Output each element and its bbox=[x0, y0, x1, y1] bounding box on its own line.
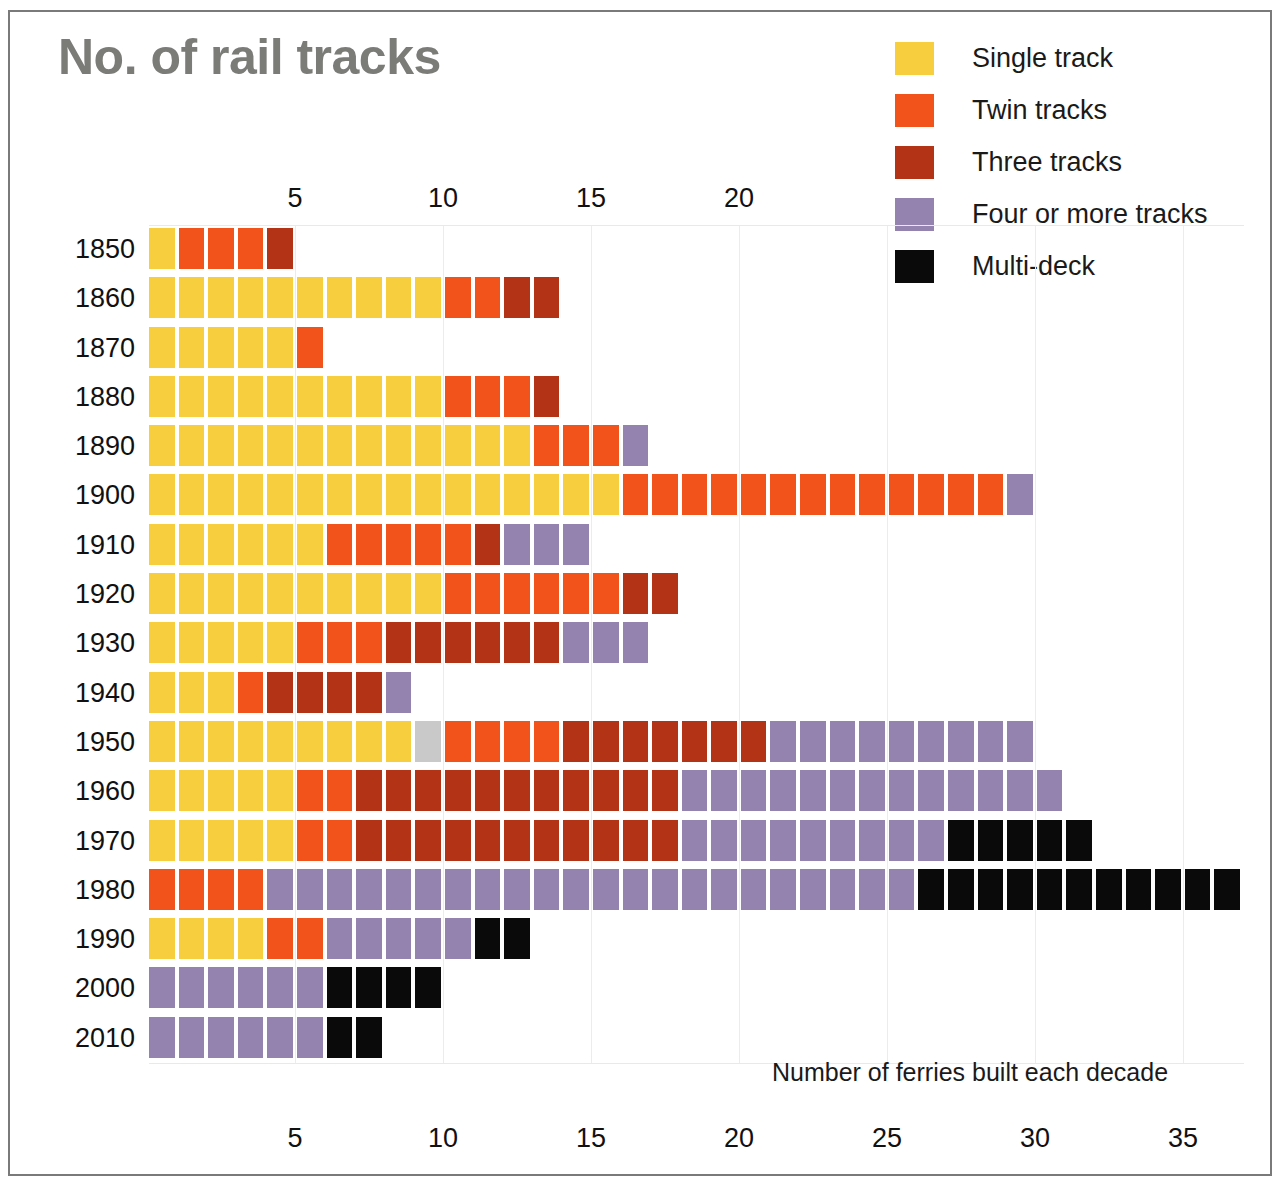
bar-cell-four_plus bbox=[356, 918, 382, 959]
bar-cell-twin bbox=[327, 770, 353, 811]
legend-swatch-single bbox=[895, 42, 934, 75]
bar-cell-single bbox=[238, 524, 264, 565]
bar-row-1870: 1870 bbox=[149, 324, 1244, 373]
bar-cell-three bbox=[563, 770, 589, 811]
bar-cell-three bbox=[386, 622, 412, 663]
bar-cell-single bbox=[267, 425, 293, 466]
bar-cell-single bbox=[208, 524, 234, 565]
bar-cell-single bbox=[179, 474, 205, 515]
bar-cell-four_plus bbox=[830, 869, 856, 910]
bar-cell-four_plus bbox=[563, 869, 589, 910]
bar-cell-multideck bbox=[1007, 869, 1033, 910]
bar-cell-single bbox=[297, 376, 323, 417]
bar-cell-four_plus bbox=[238, 1017, 264, 1058]
bar-cell-single bbox=[208, 277, 234, 318]
bar-cell-multideck bbox=[918, 869, 944, 910]
bar-cell-four_plus bbox=[741, 770, 767, 811]
bar-cell-four_plus bbox=[918, 770, 944, 811]
bottom-axis-tick-10: 10 bbox=[428, 1123, 458, 1154]
bar-row-2010: 2010 bbox=[149, 1014, 1244, 1063]
bar-row-1860: 1860 bbox=[149, 274, 1244, 323]
bar-cell-multideck bbox=[415, 967, 441, 1008]
bar-cell-twin bbox=[327, 524, 353, 565]
bar-cell-four_plus bbox=[563, 622, 589, 663]
bar-cell-single bbox=[267, 721, 293, 762]
bar-cell-single bbox=[327, 474, 353, 515]
bar-cell-single bbox=[297, 425, 323, 466]
bar-cell-twin bbox=[297, 770, 323, 811]
bar-cell-single bbox=[386, 376, 412, 417]
bar-cell-multideck bbox=[356, 1017, 382, 1058]
y-axis-label-1990: 1990 bbox=[75, 924, 135, 955]
bar-cell-single bbox=[238, 277, 264, 318]
bar-cell-single bbox=[149, 327, 175, 368]
bar-cell-three bbox=[445, 622, 471, 663]
bar-cell-single bbox=[179, 820, 205, 861]
bar-row-1920: 1920 bbox=[149, 570, 1244, 619]
bar-cell-twin bbox=[445, 524, 471, 565]
y-axis-label-2000: 2000 bbox=[75, 973, 135, 1004]
bar-cell-multideck bbox=[1214, 869, 1240, 910]
bar-cell-single bbox=[386, 277, 412, 318]
bar-cell-single bbox=[593, 474, 619, 515]
bar-cell-twin bbox=[179, 869, 205, 910]
bar-cell-four_plus bbox=[445, 918, 471, 959]
bar-cell-single bbox=[238, 376, 264, 417]
bar-cell-three bbox=[593, 770, 619, 811]
chart-page: No. of rail tracks Single trackTwin trac… bbox=[0, 0, 1283, 1187]
bar-cell-four_plus bbox=[1007, 474, 1033, 515]
bar-cell-twin bbox=[741, 474, 767, 515]
bottom-axis-tick-25: 25 bbox=[872, 1123, 902, 1154]
legend-label-twin: Twin tracks bbox=[972, 95, 1107, 126]
bar-cell-single bbox=[386, 425, 412, 466]
bar-cell-three bbox=[475, 770, 501, 811]
bar-cell-four_plus bbox=[149, 1017, 175, 1058]
bar-cell-four_plus bbox=[297, 967, 323, 1008]
bar-cell-four_plus bbox=[652, 869, 678, 910]
bar-cell-twin bbox=[297, 820, 323, 861]
bar-cell-twin bbox=[859, 474, 885, 515]
bar-cell-single bbox=[445, 474, 471, 515]
bar-cell-three bbox=[652, 721, 678, 762]
bar-cell-multideck bbox=[327, 967, 353, 1008]
bar-cell-single bbox=[208, 474, 234, 515]
bar-cell-three bbox=[652, 820, 678, 861]
bar-cell-four_plus bbox=[741, 869, 767, 910]
bar-cell-single bbox=[475, 425, 501, 466]
bottom-axis-tick-5: 5 bbox=[287, 1123, 302, 1154]
bar-cell-single bbox=[356, 425, 382, 466]
y-axis-label-1980: 1980 bbox=[75, 875, 135, 906]
bar-row-1940: 1940 bbox=[149, 669, 1244, 718]
bar-row-1900: 1900 bbox=[149, 471, 1244, 520]
page-title: No. of rail tracks bbox=[58, 28, 441, 86]
bar-cell-four_plus bbox=[504, 524, 530, 565]
bar-cell-single bbox=[475, 474, 501, 515]
legend-item-three: Three tracks bbox=[895, 136, 1265, 188]
bar-cell-single bbox=[238, 918, 264, 959]
bar-cell-single bbox=[267, 376, 293, 417]
bar-cell-four_plus bbox=[800, 820, 826, 861]
bar-cell-three bbox=[356, 770, 382, 811]
bar-cell-single bbox=[356, 474, 382, 515]
bar-cell-single bbox=[208, 376, 234, 417]
bar-cell-multideck bbox=[1066, 869, 1092, 910]
bar-cell-single bbox=[149, 474, 175, 515]
bar-cell-four_plus bbox=[978, 721, 1004, 762]
bar-cell-twin bbox=[770, 474, 796, 515]
bar-cell-twin bbox=[445, 376, 471, 417]
bar-cell-twin bbox=[593, 425, 619, 466]
bar-cell-multideck bbox=[356, 967, 382, 1008]
bar-cell-single bbox=[179, 327, 205, 368]
bar-cell-four_plus bbox=[534, 524, 560, 565]
bar-cell-four_plus bbox=[682, 820, 708, 861]
bar-cell-single bbox=[297, 474, 323, 515]
bar-cell-multideck bbox=[948, 820, 974, 861]
bar-row-1950: 1950 bbox=[149, 718, 1244, 767]
bar-cell-single bbox=[208, 918, 234, 959]
y-axis-label-1920: 1920 bbox=[75, 579, 135, 610]
bar-cell-four_plus bbox=[297, 1017, 323, 1058]
bar-cell-twin bbox=[475, 721, 501, 762]
top-axis-tick-15: 15 bbox=[576, 183, 606, 214]
bar-cell-single bbox=[386, 573, 412, 614]
bar-cell-four_plus bbox=[267, 967, 293, 1008]
